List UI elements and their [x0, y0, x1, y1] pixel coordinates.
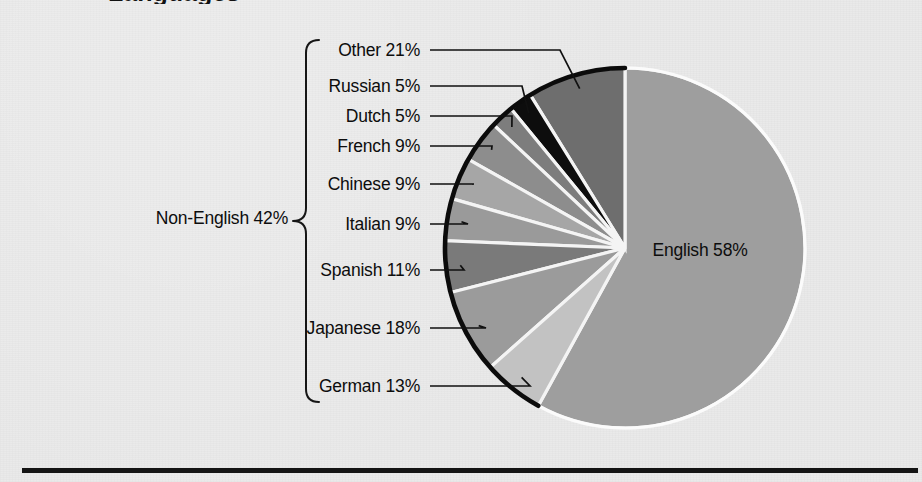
callout-label-italian: Italian 9% — [345, 214, 420, 234]
brace-group — [293, 40, 319, 402]
callout-label-dutch: Dutch 5% — [346, 106, 420, 126]
callout-label-chinese: Chinese 9% — [328, 174, 420, 194]
callout-label-french: French 9% — [337, 136, 420, 156]
non-english-brace — [293, 40, 319, 402]
pie-slice-label-english: English 58% — [652, 240, 747, 260]
bottom-horizontal-rule — [22, 468, 918, 473]
callout-label-other: Other 21% — [338, 40, 420, 60]
pie-chart-svg: English 58%Other 21%Russian 5%Dutch 5%Fr… — [0, 0, 922, 482]
callout-label-german: German 13% — [319, 376, 420, 396]
callout-label-japanese: Japanese 18% — [307, 318, 420, 338]
non-english-group-label: Non-English 42% — [156, 208, 288, 228]
callout-label-spanish: Spanish 11% — [320, 260, 420, 280]
pie-chart-figure: Languages English 58%Other 21%Russian 5%… — [0, 0, 922, 482]
callout-label-russian: Russian 5% — [329, 76, 420, 96]
